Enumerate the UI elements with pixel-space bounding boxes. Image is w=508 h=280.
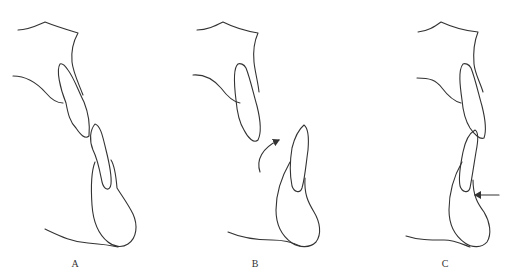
panel-c: C (406, 22, 499, 269)
curved-rotation-arrow (259, 140, 279, 172)
lower-alveolar-outline (276, 162, 320, 247)
chin-baseline (406, 236, 470, 247)
panel-label-b: B (252, 258, 259, 269)
upper-lip-outline (197, 22, 259, 92)
chin-baseline (45, 229, 118, 247)
lower-incisor (291, 125, 309, 192)
panel-b: B (193, 22, 320, 269)
lower-upper-lip-line (193, 75, 240, 103)
upper-incisor (460, 64, 486, 139)
panel-label-c: C (442, 258, 449, 269)
upper-lip-outline (18, 22, 83, 95)
lower-upper-lip-line (13, 76, 63, 103)
lower-alveolar-outline (449, 162, 490, 247)
chin-baseline (228, 232, 300, 246)
panel-label-a: A (71, 258, 79, 269)
lower-alveolar-outline (91, 160, 136, 246)
upper-lip-outline (418, 22, 483, 92)
panel-a: A (13, 22, 136, 269)
lower-upper-lip-line (417, 78, 461, 103)
diagram-canvas: A B C (0, 0, 508, 280)
upper-incisor (58, 64, 89, 138)
lower-incisor (459, 130, 477, 192)
lower-incisor (91, 124, 112, 189)
